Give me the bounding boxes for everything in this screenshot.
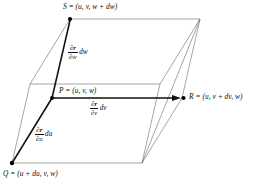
fraction-dw-numerator: ∂r: [68, 44, 78, 53]
edge-inner-vertical: [142, 84, 160, 163]
fraction-dv: ∂r ∂v: [90, 100, 98, 117]
fraction-du-numerator: ∂r: [35, 126, 44, 135]
vector-label-dv: ∂r ∂v dv: [90, 100, 107, 117]
differential-dv: dv: [98, 105, 106, 112]
fraction-dw: ∂r ∂w: [68, 44, 78, 61]
vertex-dot-R: [181, 96, 185, 100]
figure-canvas: S = (u, v, w + dw) P = (u, v, w) R = (u,…: [0, 0, 259, 184]
vertex-dots: [10, 17, 186, 165]
vertex-label-Q: Q = (u + du, v, w): [3, 170, 58, 177]
edge-bottom-vr: [142, 98, 182, 163]
vertex-dot-Q: [10, 161, 14, 165]
arrowhead-dv: [172, 95, 181, 101]
vertex-dot-P: [50, 96, 54, 100]
differential-dw: dw: [78, 49, 88, 56]
differential-du: du: [44, 131, 53, 138]
fraction-du: ∂r ∂u: [35, 126, 44, 143]
edge-left-vertical: [12, 84, 30, 163]
edge-top-vu: [160, 19, 200, 84]
vector-label-du: ∂r ∂u du: [35, 126, 52, 143]
vector-label-dw: ∂r ∂w dw: [68, 44, 88, 61]
vertex-label-P-text: P = (u, v, w): [59, 86, 96, 95]
edge-diagonal-guide: [142, 19, 200, 163]
vertex-label-P: P = (u, v, w): [59, 87, 96, 94]
edge-right-vertical: [182, 19, 200, 98]
vertex-label-S: S = (u, v, w + dw): [63, 3, 117, 10]
edge-top-us: [30, 19, 70, 84]
fraction-dw-denominator: ∂w: [68, 53, 78, 61]
vertex-label-R: R = (u, v + dv, w): [189, 93, 242, 100]
vertex-label-R-text: R = (u, v + dv, w): [189, 92, 242, 101]
fraction-dv-denominator: ∂v: [90, 109, 98, 117]
vertex-dot-S: [68, 17, 72, 21]
fraction-du-denominator: ∂u: [35, 135, 44, 143]
vertex-label-S-text: S = (u, v, w + dw): [63, 2, 117, 11]
fraction-dv-numerator: ∂r: [90, 100, 98, 109]
vertex-label-Q-text: Q = (u + du, v, w): [3, 169, 58, 178]
